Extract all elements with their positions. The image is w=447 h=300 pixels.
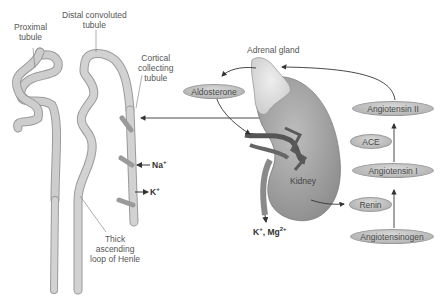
label-line: tubule [62,20,127,30]
adrenal-gland-label: Adrenal gland [247,45,299,55]
renin-angiotensin-diagram [0,0,447,300]
excreted-ions-label: K+, Mg2+ [253,226,287,237]
label-line: loop of Henle [90,254,140,264]
label-line: ascending [90,244,140,254]
angiotensin-i-node: Angiotensin I [352,163,434,178]
ion-charge: + [156,186,160,192]
distal-tubule-label: Distal convoluted tubule [62,10,127,30]
angiotensinogen-node: Angiotensinogen [350,229,434,244]
label-line: collecting [138,63,173,73]
aldosterone-node: Aldosterone [183,84,245,99]
thick-ascending-loop-label: Thick ascending loop of Henle [90,234,140,264]
potassium-ion-label: K+ [150,186,160,197]
label-line: Distal convoluted [62,10,127,20]
ion-symbol: Na [152,160,163,170]
kidney-label: Kidney [290,176,316,186]
label-line: Thick [90,234,140,244]
sodium-ion-label: Na+ [152,159,166,170]
ion-charge: 2+ [280,226,287,232]
label-line: Cortical [138,53,173,63]
proximal-tubule [16,52,58,290]
proximal-tubule-label: Proximal tubule [14,22,47,42]
cortical-collecting-tubule-label: Cortical collecting tubule [138,53,173,83]
ion-symbol: , Mg [263,227,280,237]
renin-node: Renin [349,197,392,212]
ion-charge: + [163,159,167,165]
cortical-collecting-tubule [119,110,134,222]
label-line: tubule [138,73,173,83]
label-line: Proximal [14,22,47,32]
label-line: tubule [14,32,47,42]
angiotensin-ii-node: Angiotensin II [352,101,434,116]
ace-node: ACE [350,134,392,149]
